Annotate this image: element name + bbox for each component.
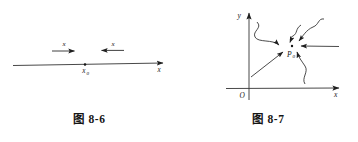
- number-line-axis: [13, 63, 163, 66]
- left-approach-arrow-label: x: [61, 40, 66, 48]
- point-x0-subscript: 0: [87, 71, 90, 76]
- right-approach-arrow-label: x: [110, 40, 115, 48]
- number-line: [13, 63, 163, 66]
- approach-path-upper-left: [254, 22, 279, 45]
- figure-8-7-drawing: y x O P 0: [179, 0, 358, 110]
- point-p0-subscript: 0: [293, 54, 296, 59]
- figure-8-6-drawing: x 0 x x x: [0, 0, 179, 110]
- figure-8-7: y x O P 0 图 8-7: [179, 0, 358, 142]
- x-axis-label: x: [157, 66, 162, 74]
- figure-8-7-caption: 图 8-7: [179, 110, 358, 126]
- point-x0-label: x: [81, 67, 86, 75]
- approach-path-lower-left: [251, 52, 283, 77]
- origin-label: O: [240, 91, 246, 100]
- figure-8-6: x 0 x x x 图 8-6: [0, 0, 179, 142]
- point-p0-dot: [291, 45, 293, 47]
- approach-path-right: [301, 46, 339, 47]
- y-axis: y: [237, 11, 250, 101]
- point-p0-label: P: [286, 50, 292, 59]
- approach-path-lower-right: [297, 52, 306, 84]
- right-approach-arrow: x: [102, 40, 125, 51]
- x-axis-label: x: [333, 90, 338, 99]
- y-axis-label: y: [237, 11, 242, 20]
- x-axis-line: [226, 88, 339, 89]
- approach-path-upper-right: [299, 19, 324, 41]
- point-x0-dot: [84, 63, 87, 66]
- left-approach-arrow: x: [52, 40, 75, 51]
- figure-8-6-caption: 图 8-6: [0, 110, 179, 126]
